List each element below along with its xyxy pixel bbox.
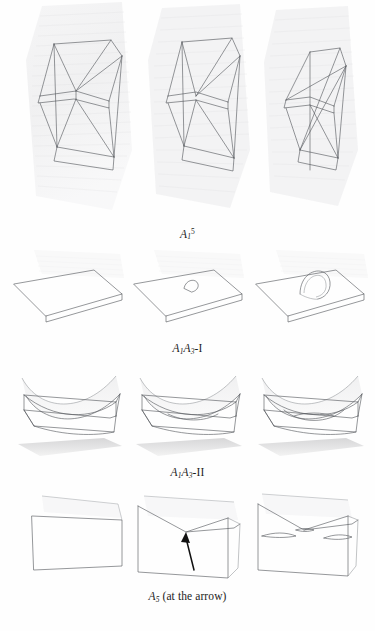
diagram-a1a3-II-center bbox=[128, 368, 250, 460]
diagram-a1-5-left bbox=[14, 0, 142, 215]
plane-edge-lower bbox=[288, 294, 364, 322]
ground-shadow bbox=[258, 438, 364, 456]
crease-right-fold bbox=[186, 524, 240, 532]
upper-haze bbox=[42, 496, 122, 518]
panel-a1-5-left bbox=[14, 0, 142, 215]
plane-edge-lower bbox=[46, 294, 122, 322]
panel-group-a1-5 bbox=[0, 0, 375, 215]
figure-row-a1-5: A15 bbox=[0, 0, 375, 248]
caption-a1-5: A15 bbox=[0, 227, 375, 241]
haze-fill bbox=[276, 250, 368, 278]
panel-a5-left bbox=[18, 490, 134, 586]
trough-surface bbox=[140, 376, 240, 419]
caption-a5-suffix: (at the arrow) bbox=[160, 590, 227, 602]
diagram-a1a3-II-right bbox=[250, 368, 372, 460]
arch-base-ellipse bbox=[300, 294, 318, 299]
panel-group-a1a3-I bbox=[0, 248, 375, 336]
caption-a1a3-II-base2: A bbox=[182, 466, 189, 478]
upper-haze bbox=[262, 494, 352, 518]
diagram-a5-right bbox=[252, 490, 372, 586]
figure-row-a1a3-I: A1A3-I bbox=[0, 248, 375, 368]
panel-a5-right bbox=[252, 490, 372, 586]
diagram-a1a3-I-right bbox=[250, 248, 374, 336]
panel-a1a3-II-center bbox=[128, 368, 250, 460]
plane-edge-lower bbox=[166, 294, 242, 322]
haze-fill bbox=[154, 250, 244, 278]
upper-haze bbox=[144, 496, 238, 520]
ground-shadow bbox=[136, 438, 242, 456]
diagram-a5-left bbox=[18, 490, 134, 586]
backing-sheet bbox=[264, 6, 358, 206]
caption-a1a3-I-suffix: -I bbox=[195, 342, 203, 354]
caption-a1a3-I: A1A3-I bbox=[0, 342, 375, 356]
trough-surface bbox=[22, 376, 120, 419]
right-flank bbox=[228, 518, 240, 578]
figure-row-a1a3-II: A1A3-II bbox=[0, 368, 375, 490]
caption-a1a3-II: A1A3-II bbox=[0, 466, 375, 480]
ground-shadow bbox=[18, 438, 122, 456]
panel-a1a3-II-right bbox=[250, 368, 372, 460]
arch-inner bbox=[304, 275, 326, 297]
panel-a1-5-center bbox=[140, 0, 258, 215]
caption-a1a3-I-base: A bbox=[173, 342, 180, 354]
diagram-a1a3-I-left bbox=[8, 248, 128, 336]
backing-sheet bbox=[148, 4, 250, 208]
annotation-arrow bbox=[181, 532, 194, 570]
figure-row-a5: A5 (at the arrow) bbox=[0, 490, 375, 610]
caption-a5: A5 (at the arrow) bbox=[0, 590, 375, 604]
panel-a1a3-II-left bbox=[10, 368, 128, 460]
diagram-a1a3-II-left bbox=[10, 368, 128, 460]
figure-plate: A15 bbox=[0, 0, 375, 631]
panel-a1a3-I-right bbox=[250, 248, 374, 336]
caption-a5-base: A bbox=[149, 590, 156, 602]
trough-surface bbox=[262, 376, 362, 419]
panel-a1a3-I-left bbox=[8, 248, 128, 336]
backing-sheet bbox=[26, 2, 132, 210]
panel-a1-5-right bbox=[256, 0, 368, 215]
slit-left bbox=[262, 533, 296, 538]
caption-a1a3-II-suffix: -II bbox=[193, 466, 205, 478]
diagram-a1-5-center bbox=[140, 0, 258, 215]
caption-a1-5-sup: 5 bbox=[191, 227, 195, 236]
panel-group-a1a3-II bbox=[0, 368, 375, 460]
quad-sheet bbox=[32, 516, 122, 570]
emerging-lip bbox=[184, 280, 198, 292]
diagram-a1a3-I-center bbox=[128, 248, 248, 336]
right-flank bbox=[348, 516, 358, 576]
diagram-a5-center bbox=[130, 490, 252, 586]
panel-a5-center bbox=[130, 490, 252, 586]
diagram-a1-5-right bbox=[256, 0, 368, 215]
panel-group-a5 bbox=[0, 490, 375, 586]
haze-fill bbox=[34, 250, 124, 278]
caption-a1a3-I-base2: A bbox=[184, 342, 191, 354]
caption-a1a3-II-base: A bbox=[171, 466, 178, 478]
panel-a1a3-I-center bbox=[128, 248, 248, 336]
